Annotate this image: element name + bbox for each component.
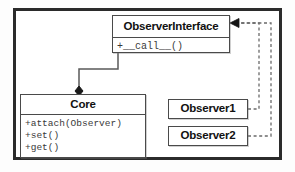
class-members-core: +attach(Observer) +set() +get() [21, 114, 145, 156]
class-member: +set() [25, 130, 142, 142]
class-box-observer1[interactable]: Observer1 [168, 99, 248, 119]
class-member: +__call__() [117, 40, 226, 53]
class-member: +attach(Observer) [25, 118, 142, 130]
class-title-observer-interface: ObserverInterface [113, 16, 229, 37]
class-box-observer-interface[interactable]: ObserverInterface +__call__() [112, 15, 230, 53]
class-box-core[interactable]: Core +attach(Observer) +set() +get() [20, 94, 146, 158]
class-title-observer2: Observer2 [169, 127, 247, 144]
class-title-observer1: Observer1 [169, 100, 247, 117]
class-box-observer2[interactable]: Observer2 [168, 126, 248, 146]
class-member: +get() [25, 142, 142, 154]
class-members-observer-interface: +__call__() [113, 37, 229, 57]
class-title-core: Core [21, 95, 145, 114]
uml-class-diagram: ObserverInterface +__call__() Core +atta… [0, 0, 295, 172]
